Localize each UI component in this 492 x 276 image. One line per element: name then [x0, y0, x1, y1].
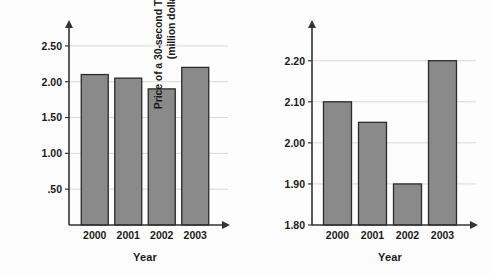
bar — [182, 67, 209, 225]
y-tick-label: 2.50 — [42, 40, 63, 52]
bar — [81, 75, 108, 225]
x-axis-title-left: Year — [105, 251, 185, 263]
y-tick-label: 1.80 — [285, 219, 306, 231]
bar — [148, 89, 175, 225]
y-tick-label: 1.90 — [285, 178, 306, 190]
chart-panel-left: Price of a 30-second TV commercial (mill… — [0, 0, 246, 276]
y-tick-label: 2.00 — [42, 76, 63, 88]
bar — [429, 61, 457, 225]
y-tick-label: 2.20 — [285, 55, 306, 67]
bar — [115, 78, 142, 225]
bar — [324, 102, 352, 225]
x-tick-label: 2003 — [184, 229, 208, 241]
y-tick-label: .50 — [47, 183, 62, 195]
x-tick-label: 2002 — [150, 229, 174, 241]
bar — [359, 122, 387, 225]
y-tick-label: 2.10 — [285, 96, 306, 108]
bar-chart-figure: Price of a 30-second TV commercial (mill… — [0, 0, 492, 276]
plot-area-right: 1.801.902.002.102.202000200120022003 — [246, 0, 492, 276]
y-tick-label: 2.00 — [285, 137, 306, 149]
x-tick-label: 2002 — [396, 229, 420, 241]
plot-area-left: .501.001.502.002.502000200120022003 — [0, 0, 246, 276]
x-tick-label: 2001 — [117, 229, 141, 241]
y-tick-label: 1.00 — [42, 147, 63, 159]
x-axis-title-right: Year — [350, 251, 430, 263]
chart-panel-right: Price of a 30-second TV commercial (mill… — [246, 0, 492, 276]
x-tick-label: 2001 — [361, 229, 385, 241]
y-tick-label: 1.50 — [42, 111, 63, 123]
x-tick-label: 2003 — [431, 229, 455, 241]
x-tick-label: 2000 — [326, 229, 350, 241]
x-tick-label: 2000 — [83, 229, 107, 241]
bar — [394, 184, 422, 225]
